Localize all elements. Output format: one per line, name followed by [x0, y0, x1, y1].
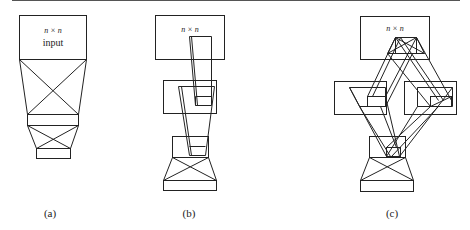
- stage-2-output: [37, 149, 71, 159]
- lower-trapezoid: [164, 158, 217, 181]
- left-box: [335, 82, 387, 115]
- bottom-box: [361, 181, 414, 192]
- caption-b: (b): [169, 207, 209, 219]
- panel-b-dim-label: n × n: [155, 25, 225, 34]
- caption-a: (a): [30, 207, 70, 219]
- panel-c-dim-label: n × n: [360, 24, 430, 33]
- lower-trapezoid: [361, 158, 414, 181]
- panel-a-dim-label: n × n: [19, 26, 87, 35]
- stage-1-trapezoid: [20, 60, 87, 115]
- panel-b-graphic: [156, 16, 225, 191]
- stage-2-trapezoid: [28, 126, 79, 149]
- panel-a-input-label: input: [19, 37, 87, 48]
- bottom-box: [164, 181, 217, 191]
- caption-c: (c): [372, 207, 412, 219]
- stage-1-output: [28, 115, 79, 126]
- panel-c-graphic: [335, 17, 457, 192]
